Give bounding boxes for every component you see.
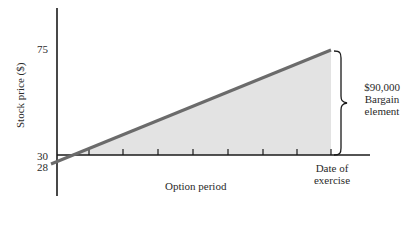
annotation-line2: element [357,105,407,117]
x-axis-label: Option period [165,180,226,192]
bargain-element-annotation: $90,000 Bargain element [357,81,407,117]
annotation-value: $90,000 [357,81,407,93]
annotation-line1: Bargain [357,93,407,105]
y-tick-75: 75 [37,43,48,55]
bargain-brace [334,51,347,155]
exercise-label-line2: exercise [302,174,362,186]
exercise-label-line1: Date of [302,162,362,174]
y-tick-28: 28 [37,161,48,173]
y-axis-label: Stock price ($) [14,63,26,128]
exercise-date-label: Date of exercise [302,162,362,186]
